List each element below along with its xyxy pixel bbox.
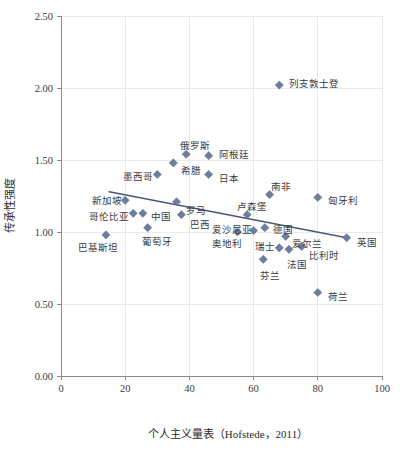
data-points (102, 81, 351, 297)
data-point-label: 日本 (219, 173, 239, 184)
data-point-marker (121, 196, 129, 204)
y-tick-label: 2.00 (35, 83, 53, 94)
data-point-label: 俄罗斯 (180, 140, 210, 151)
data-point-marker (314, 288, 322, 296)
data-point-label: 卢森堡 (237, 201, 267, 212)
data-point-marker (177, 211, 185, 219)
data-point-label: 中国 (151, 211, 171, 222)
data-point-marker (261, 224, 269, 232)
data-point-marker (314, 193, 322, 201)
y-tick-label: 1.00 (35, 227, 53, 238)
data-point-label: 哥伦比亚 (89, 211, 129, 222)
data-point-label: 荷兰 (328, 291, 348, 302)
data-point-label: 巴基斯坦 (78, 242, 118, 253)
data-point-marker (275, 244, 283, 252)
data-point-marker (144, 224, 152, 232)
data-point-label: 南非 (271, 181, 291, 192)
data-point-label: 罗马 (186, 206, 206, 216)
x-axis-title: 个人主义量表（Hofstede，2011） (148, 427, 308, 440)
scatter-chart: 0.000.501.001.502.002.50020406080100 列支敦… (0, 0, 418, 451)
x-tick-label: 60 (248, 383, 259, 394)
x-tick-label: 0 (58, 383, 63, 394)
data-point-label: 德国 (273, 224, 293, 235)
data-point-label: 葡萄牙 (142, 236, 172, 247)
plot-canvas: 0.000.501.001.502.002.50020406080100 列支敦… (0, 0, 418, 451)
data-point-labels: 列支敦士登俄罗斯阿根廷希腊日本墨西哥南非匈牙利新加坡罗马哥伦比亚中国卢森堡巴西爱… (78, 78, 377, 302)
data-point-label: 瑞士 (255, 241, 275, 252)
data-point-label: 比利时 (309, 250, 339, 261)
data-point-marker (259, 255, 267, 263)
data-point-label: 奥地利 (212, 238, 242, 249)
y-axis-title: 传承性强度 (3, 178, 16, 233)
x-tick-label: 100 (374, 383, 390, 394)
data-point-label: 芬兰 (260, 270, 280, 281)
data-point-label: 英国 (357, 237, 377, 248)
data-point-label: 法国 (287, 259, 307, 270)
data-point-marker (139, 209, 147, 217)
data-point-label: 爱尔兰 (292, 238, 322, 249)
y-tick-label: 0.00 (35, 371, 53, 382)
data-point-marker (153, 170, 161, 178)
y-tick-label: 1.50 (35, 155, 53, 166)
data-point-label: 巴西 (190, 220, 210, 230)
y-tick-label: 0.50 (35, 299, 53, 310)
data-point-label: 阿根廷 (219, 149, 249, 160)
x-tick-label: 20 (120, 383, 131, 394)
data-point-label: 墨西哥 (123, 172, 153, 182)
data-point-label: 新加坡 (92, 195, 122, 206)
data-point-label: 希腊 (181, 165, 201, 176)
data-point-marker (343, 234, 351, 242)
data-point-label: 列支敦士登 (289, 78, 339, 89)
data-point-marker (129, 209, 137, 217)
data-point-marker (205, 152, 213, 160)
data-point-label: 匈牙利 (328, 195, 358, 206)
data-point-marker (205, 170, 213, 178)
x-tick-label: 80 (313, 383, 324, 394)
x-tick-label: 40 (184, 383, 195, 394)
data-point-label: 爱沙尼亚 (212, 224, 252, 235)
y-tick-label: 2.50 (35, 11, 53, 22)
